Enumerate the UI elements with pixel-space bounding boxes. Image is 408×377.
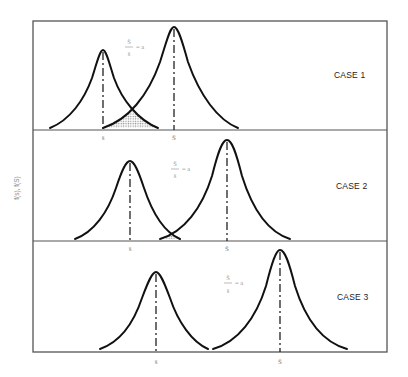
ratio-denominator: s̄ [174, 172, 177, 179]
ratio-denominator: s̄ [128, 50, 131, 57]
ratio-rhs: = a [136, 43, 144, 50]
ratio-denominator: s̄ [227, 287, 230, 294]
ratio-numerator: S̄ [226, 274, 230, 281]
tick-label-small-mean: s̄ [128, 245, 132, 253]
ratio-rhs: = a [235, 279, 243, 286]
curve-small-f-s [100, 272, 208, 349]
ratio-numerator: S̄ [173, 160, 177, 167]
tick-label-large-mean: S̄ [225, 245, 229, 253]
tick-label-small-mean: s̄ [154, 358, 158, 366]
y-axis-label: f(s), f(S) [13, 176, 21, 199]
curve-small-f-s [50, 50, 158, 128]
curve-large-f-S [103, 27, 238, 128]
tick-label-large-mean: S̄ [278, 358, 282, 366]
panel-case-2: S̄ s̄ = a CASE 2 s̄ S̄ [75, 140, 368, 253]
panel-case-3: S̄ s̄ = a CASE 3 s̄ S̄ [100, 250, 369, 366]
curve-large-f-S [160, 140, 290, 239]
ratio-rhs: = a [182, 165, 190, 172]
case-label: CASE 3 [337, 292, 369, 302]
case-label: CASE 2 [336, 181, 368, 191]
curve-small-f-s [75, 161, 180, 239]
stress-strength-interference-diagram: f(s), f(S) S̄ s̄ = a CASE 1 s̄ S̄ S̄ s̄ … [0, 0, 408, 377]
ratio-numerator: S̄ [127, 38, 131, 45]
case-label: CASE 1 [334, 70, 366, 80]
panel-case-1: S̄ s̄ = a CASE 1 s̄ S̄ [50, 27, 366, 142]
tick-label-large-mean: S̄ [172, 134, 176, 142]
tick-label-small-mean: s̄ [101, 134, 105, 142]
